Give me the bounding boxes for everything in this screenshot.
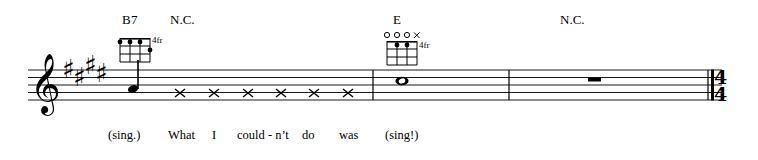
lyric-sing-excl: (sing!) [385,128,418,143]
note-whole [395,77,408,85]
lyric-sing-paren: (sing.) [108,128,140,143]
rhythm-slash-2 [209,89,219,97]
svg-text:4: 4 [714,83,727,105]
staff-lines [28,70,722,100]
rhythm-slash-1 [175,89,185,97]
rhythm-slash-6 [343,89,353,97]
rhythm-slash-4 [276,89,286,97]
whole-rest [588,78,601,82]
lyric-i: I [212,128,216,143]
rhythm-slash-3 [243,89,253,97]
sheet-music-page: B7 N.C. E N.C. 4fr [0,0,758,160]
time-signature: 4 4 [714,66,727,105]
rhythm-slash-group [175,89,353,97]
lyric-what: What [168,128,195,143]
svg-text:𝄞: 𝄞 [30,53,61,116]
treble-clef-icon: 𝄞 [30,53,61,116]
lyric-couldnt: could - n’t [237,128,289,143]
rhythm-slash-5 [309,89,319,97]
lyric-was: was [339,128,358,143]
svg-text:♯: ♯ [95,58,108,88]
lyric-do: do [302,128,315,143]
